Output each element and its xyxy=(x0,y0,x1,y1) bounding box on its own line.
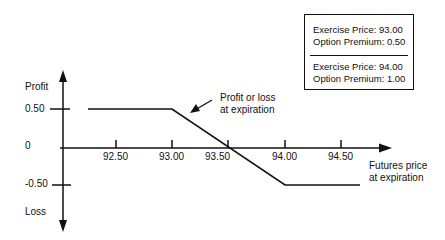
legend-option-premium-2: Option Premium: 1.00 xyxy=(313,73,405,85)
x-tick-label: 94.50 xyxy=(328,151,353,163)
y-label-profit: Profit xyxy=(25,81,48,93)
x-tick-label: 93.50 xyxy=(205,151,230,163)
legend-divider xyxy=(310,55,408,56)
annotation-arrowhead-icon xyxy=(190,104,200,113)
annotation-line2: at expiration xyxy=(220,104,274,116)
y-tick-label: -0.50 xyxy=(25,178,48,190)
x-tick-label: 92.50 xyxy=(103,151,128,163)
payoff-line xyxy=(88,109,360,185)
legend-exercise-price-1: Exercise Price: 93.00 xyxy=(313,24,403,36)
annotation-line1: Profit or loss xyxy=(220,92,276,104)
x-axis-label-line2: at expiration xyxy=(369,172,423,184)
x-axis-label-line1: Futures price xyxy=(369,160,427,172)
x-tick-label: 93.00 xyxy=(159,151,184,163)
y-axis-up-arrow-icon xyxy=(59,70,67,82)
y-label-loss: Loss xyxy=(25,206,46,218)
legend-box: Exercise Price: 93.00 Option Premium: 0.… xyxy=(304,14,414,90)
legend-exercise-price-2: Exercise Price: 94.00 xyxy=(313,61,403,73)
x-tick-label: 94.00 xyxy=(272,151,297,163)
x-axis-arrow-icon xyxy=(379,144,392,153)
y-tick-label: 0.50 xyxy=(25,103,44,115)
y-tick-label: 0 xyxy=(25,140,31,152)
legend-option-premium-1: Option Premium: 0.50 xyxy=(313,36,405,48)
y-axis-down-arrow-icon xyxy=(59,220,67,232)
